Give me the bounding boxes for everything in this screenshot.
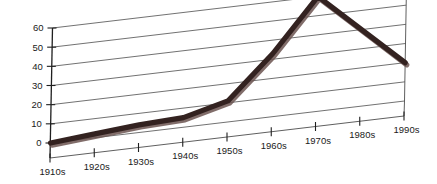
x-axis-tick-label: 1910s	[40, 166, 66, 177]
x-axis-tick-label: 1940s	[172, 150, 198, 161]
y-axis-tick-label: 10	[31, 118, 42, 129]
y-axis-tick-label: 50	[33, 42, 44, 53]
y-axis-tick-label: 30	[32, 80, 43, 91]
y-axis-labels: 0102030405060	[31, 22, 43, 148]
x-axis-tick-label: 1990s	[394, 124, 420, 135]
chart-container: 0102030405060 1910s1920s1930s1940s1950s1…	[0, 0, 437, 184]
line-chart-3d: 0102030405060 1910s1920s1930s1940s1950s1…	[0, 0, 437, 184]
x-axis-tick-label: 1970s	[305, 135, 331, 146]
series-line	[51, 0, 406, 143]
x-axis-tick-label: 1920s	[84, 161, 110, 172]
y-axis-tick-label: 20	[32, 99, 43, 110]
y-axis-tick-label: 60	[33, 22, 44, 33]
x-axis-tick-label: 1930s	[128, 156, 154, 167]
y-axis-tick-label: 40	[32, 61, 43, 72]
x-axis-tick-label: 1950s	[217, 145, 243, 156]
x-axis-tick-label: 1960s	[261, 140, 287, 151]
y-axis-tick-label: 0	[36, 137, 41, 148]
x-axis-tick-label: 1980s	[349, 129, 375, 140]
